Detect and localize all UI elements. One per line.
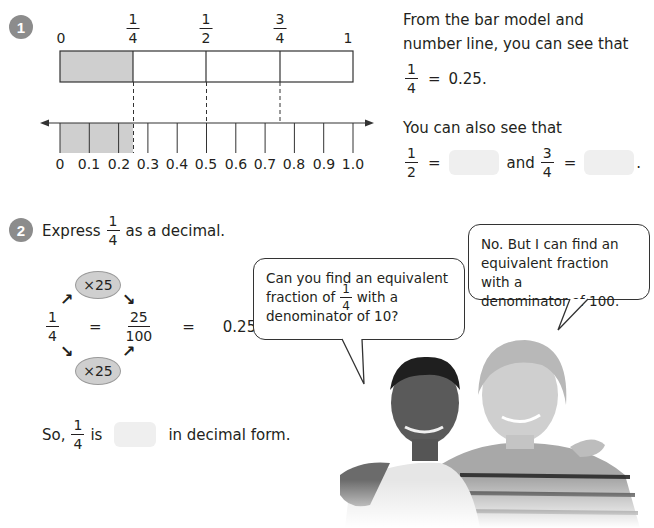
fraction-denominator: 2 [407,163,416,179]
equals-sign: = [182,315,195,339]
decimal-value: 0.25. [449,67,487,91]
tick-label: 0.9 [313,156,335,172]
arrow-up-right-icon: ↗ [60,292,73,308]
speech-bubble-right-tail [556,298,592,332]
fraction-numerator: 1 [71,418,84,435]
prompt-text: Express [42,219,101,243]
fraction-denominator: 4 [73,435,82,451]
equation-quarter-decimal: 14 = 0.25. [403,62,487,95]
fraction-numerator: 1 [405,146,418,163]
arrow-down-right-icon: ↘ [122,292,135,308]
bar-model-and-number-line [0,0,400,160]
multiplier-top-oval: ×25 [75,271,121,299]
multiplier-bottom-oval: ×25 [75,357,121,385]
bubble-text: Can you find an equivalent [266,269,452,288]
bubble-text: No. But I can find an [481,235,637,254]
equals-sign: = [564,151,577,175]
arrow-left-icon [40,120,49,127]
period: . [636,151,641,175]
equals-sign: = [89,315,102,339]
fraction-numerator: 25 [128,310,150,327]
tick-label: 0 [56,156,65,172]
answer-blank-half[interactable] [449,150,499,175]
tick-label: 0.6 [225,156,247,172]
conclusion-text: in decimal form. [168,423,290,447]
speech-bubble-left: Can you find an equivalent fraction of 1… [253,258,465,340]
speech-bubble-right: No. But I can find an equivalent fractio… [468,224,650,300]
explanation-line-1: From the bar model and [403,8,584,32]
equals-sign: = [428,67,441,91]
tick-label: 0.7 [254,156,276,172]
fraction-denominator: 4 [543,163,552,179]
fraction-numerator: 1 [46,310,59,327]
explanation-line-2: number line, you can see that [403,32,628,56]
fraction-denominator: 4 [48,327,57,343]
equation-half-three-quarters: 12 = and 34 = . [403,146,641,179]
photo-two-boys [330,335,654,528]
fraction-numerator: 1 [405,62,418,79]
number-line-shaded [60,123,133,153]
bubble-text-line-2: fraction of 14 with a [266,288,452,307]
tick-label: 0.1 [78,156,100,172]
section2-conclusion: So, 14 is in decimal form. [42,418,290,451]
arrow-down-right-icon: ↘ [60,344,73,360]
fraction-numerator: 1 [107,214,120,231]
prompt-text: as a decimal. [126,219,226,243]
fraction-numerator: 3 [541,146,554,163]
and-text: and [507,151,535,175]
fraction-denominator: 100 [126,327,153,343]
arrow-right-icon [365,120,374,127]
arrow-up-right-icon: ↗ [122,344,135,360]
tick-label: 0.2 [108,156,130,172]
tick-label: 0.5 [195,156,217,172]
fraction-denominator: 4 [407,79,416,95]
section2-prompt: Express 14 as a decimal. [42,214,225,247]
bar-shaded-part [60,51,133,82]
answer-blank-three-quarters[interactable] [584,150,634,175]
conclusion-text: is [90,423,102,447]
tick-label: 0.4 [166,156,188,172]
decimal-result: 0.25 [223,315,256,339]
bubble-text: with a [357,288,398,307]
conclusion-text: So, [42,423,65,447]
tick-label: 0.8 [283,156,305,172]
bubble-text: equivalent fraction with a [481,254,637,292]
tick-label: 1.0 [342,156,364,172]
equals-sign: = [428,151,441,175]
tick-label: 0.3 [137,156,159,172]
bubble-text: fraction of [266,288,335,307]
fraction-denominator: 4 [109,231,118,247]
step-number-2: 2 [9,218,33,242]
answer-blank-decimal[interactable] [114,422,156,447]
equivalent-fraction-work: 14 = 25100 = 0.25 [44,310,256,343]
fraction-numerator: 1 [340,283,352,298]
explanation-line-3: You can also see that [403,116,562,140]
bubble-text: denominator of 10? [266,307,452,326]
